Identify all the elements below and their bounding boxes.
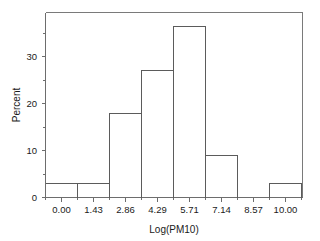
y-tick-label-20: 20 [26, 98, 37, 109]
x-tick-label-2: 2.86 [116, 204, 135, 215]
y-tick-label-0: 0 [32, 192, 37, 203]
bar-bin-1 [78, 184, 110, 198]
bar-bin-2 [110, 114, 142, 198]
y-tick-label-30: 30 [26, 51, 37, 62]
bar-bin-7 [270, 184, 302, 198]
x-tick-label-7: 10.00 [274, 204, 298, 215]
x-tick-label-0: 0.00 [52, 204, 71, 215]
x-tick-label-6: 8.57 [244, 204, 263, 215]
x-tick-label-5: 7.14 [212, 204, 231, 215]
histogram-chart: 0 10 20 30 0.00 1.43 2.86 4.29 5.71 7.14… [0, 0, 320, 241]
x-tick-label-3: 4.29 [148, 204, 167, 215]
bar-bin-0 [46, 184, 78, 198]
bar-bin-4 [174, 27, 206, 198]
x-axis-title: Log(PM10) [149, 224, 198, 235]
y-tick-label-10: 10 [26, 145, 37, 156]
bar-bin-5 [206, 156, 238, 198]
bar-bin-3 [142, 71, 174, 198]
plot-area: 0 10 20 30 0.00 1.43 2.86 4.29 5.71 7.14… [0, 0, 320, 241]
y-axis-title: Percent [11, 88, 22, 123]
x-tick-label-4: 5.71 [180, 204, 199, 215]
x-tick-label-1: 1.43 [84, 204, 103, 215]
